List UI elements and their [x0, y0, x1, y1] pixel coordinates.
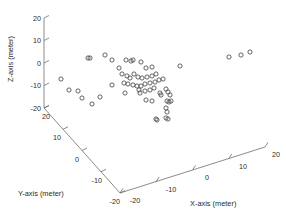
data-point: [80, 96, 84, 100]
data-point: [148, 88, 152, 92]
data-point: [227, 55, 231, 59]
data-point: [248, 50, 252, 54]
data-point-group: [59, 50, 252, 122]
y-ticklabel-neg10: -10: [92, 176, 102, 185]
z-axis-ticklabels: 20 10 0 -10 -20: [31, 14, 41, 113]
data-point: [157, 78, 161, 82]
data-point: [161, 77, 165, 81]
z-axis-tickmarks: [44, 16, 49, 109]
z-ticklabel-20: 20: [33, 14, 41, 23]
data-point: [122, 81, 126, 85]
data-point: [178, 64, 182, 68]
data-point: [165, 110, 169, 114]
figure-caption: [0, 215, 286, 224]
x-ticklabel-0: 0: [205, 173, 209, 182]
data-point: [150, 99, 154, 103]
data-point: [123, 91, 127, 95]
data-point: [150, 74, 154, 78]
scatter-plot-canvas: 20 10 0 -10 -20 Z-axis (meter) 20 10 0 -…: [0, 0, 286, 224]
data-point: [239, 53, 243, 57]
data-point: [150, 65, 154, 69]
data-point: [139, 60, 143, 64]
data-point: [153, 80, 157, 84]
y-ticklabel-neg20: -20: [110, 197, 120, 206]
figure-3d-scatter: 20 10 0 -10 -20 Z-axis (meter) 20 10 0 -…: [0, 0, 286, 224]
x-ticklabel-neg10: -10: [166, 185, 176, 194]
data-point: [124, 58, 128, 62]
data-point: [117, 66, 121, 70]
z-ticklabel-0: 0: [37, 59, 41, 68]
z-ticklabel-neg20: -20: [31, 104, 41, 113]
data-point: [144, 98, 148, 102]
data-point: [76, 89, 80, 93]
axis-lines: [44, 18, 265, 193]
data-point: [152, 86, 156, 90]
y-axis-label: Y-axis (meter): [18, 189, 64, 198]
z-ticklabel-10: 10: [33, 36, 41, 45]
x-axis-ticklabels: -20 -10 0 10 20: [130, 150, 280, 205]
data-point: [103, 53, 107, 57]
y-ticklabel-10: 10: [53, 133, 61, 142]
x-ticklabel-10: 10: [239, 162, 247, 171]
data-point: [67, 88, 71, 92]
x-axis-label: X-axis (meter): [190, 199, 236, 208]
x-ticklabel-20: 20: [272, 150, 280, 159]
z-ticklabel-neg10: -10: [31, 81, 41, 90]
data-point: [110, 58, 114, 62]
data-point: [143, 82, 147, 86]
data-point: [59, 77, 63, 81]
data-point: [140, 76, 144, 80]
y-axis-tickmarks: [44, 106, 125, 194]
data-point: [98, 95, 102, 99]
z-axis-label: Z-axis (meter): [6, 36, 15, 82]
data-point: [143, 89, 147, 93]
data-point: [90, 102, 94, 106]
data-point: [144, 66, 148, 70]
x-ticklabel-neg20: -20: [130, 196, 140, 205]
data-point: [120, 72, 124, 76]
data-point: [139, 84, 143, 88]
data-point: [126, 82, 130, 86]
y-ticklabel-20: 20: [42, 112, 50, 121]
data-point: [135, 84, 139, 88]
data-point: [132, 72, 136, 76]
data-point: [110, 83, 114, 87]
data-point: [131, 83, 135, 87]
data-point: [148, 81, 152, 85]
data-point: [136, 75, 140, 79]
data-point: [154, 72, 158, 76]
data-point: [164, 106, 168, 110]
data-point: [155, 118, 159, 122]
data-point: [145, 75, 149, 79]
y-ticklabel-0: 0: [75, 155, 79, 164]
